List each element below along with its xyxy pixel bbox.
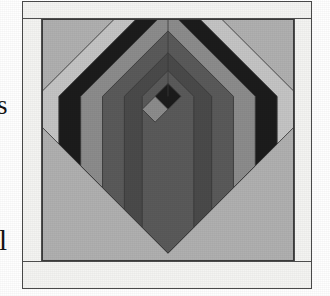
quilt-block-patches: [42, 19, 294, 261]
clipped-letter-s: s: [0, 92, 8, 119]
quilt-block-svg: [42, 19, 294, 261]
sashing-strip-right: [294, 19, 311, 261]
quilt-block-drawing-area: [42, 19, 294, 261]
clipped-letter-l: l: [0, 226, 7, 255]
sashing-strip-top: [23, 2, 311, 19]
quilt-block-figure-plate: [22, 1, 312, 289]
sashing-strip-bottom: [23, 261, 311, 288]
sashing-strip-left: [23, 19, 42, 261]
